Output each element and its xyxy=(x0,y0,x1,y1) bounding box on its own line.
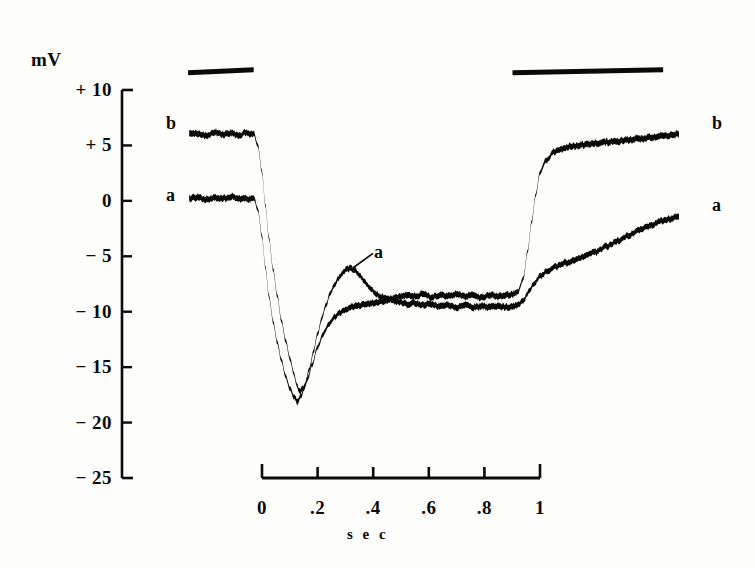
stimulus-bar-2 xyxy=(512,67,663,75)
x-tick-label-0_4: .4 xyxy=(359,498,387,517)
y-tick-label-5: + 5 xyxy=(30,135,112,154)
y-tick-label--15: − 15 xyxy=(30,357,112,376)
trace-b xyxy=(189,128,679,395)
series-label-a-left: a xyxy=(166,186,175,204)
annotation-leader-line xyxy=(353,253,373,267)
y-tick-label--10: − 10 xyxy=(30,302,112,321)
trace-ribbon-b xyxy=(189,128,679,395)
y-tick-label-0: 0 xyxy=(30,191,112,210)
x-tick-label-0_8: .8 xyxy=(470,498,498,517)
annotation-label-a: a xyxy=(374,243,383,261)
stimulus-bar-1 xyxy=(188,67,254,75)
y-tick-label--20: − 20 xyxy=(30,413,112,432)
y-axis xyxy=(122,90,133,478)
x-tick-label-0_6: .6 xyxy=(415,498,443,517)
x-axis xyxy=(262,464,540,478)
y-tick-label-10: + 10 xyxy=(30,80,112,99)
series-label-b-left: b xyxy=(166,114,176,132)
y-tick-label--5: − 5 xyxy=(30,246,112,265)
x-tick-label-1: 1 xyxy=(526,498,554,517)
series-label-a-right: a xyxy=(712,196,721,214)
trace-group xyxy=(189,128,679,405)
y-tick-label--25: − 25 xyxy=(30,468,112,487)
x-axis-title: s e c xyxy=(347,527,389,542)
electrophysiology-plot xyxy=(0,0,755,568)
annotation-leader-group xyxy=(353,253,373,267)
x-tick-label-0: 0 xyxy=(248,498,276,517)
y-axis-unit-label: mV xyxy=(31,50,62,69)
stimulus-bar-group xyxy=(188,67,663,75)
figure-container: mV + 10+ 50− 5− 10− 15− 20− 25 0.2.4.6.8… xyxy=(0,0,755,568)
series-label-b-right: b xyxy=(712,114,722,132)
x-tick-label-0_2: .2 xyxy=(304,498,332,517)
